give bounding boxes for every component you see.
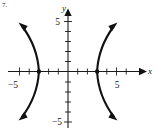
left-branch-lower-arrow-icon: [19, 112, 28, 121]
right-branch-upper-arrow-icon: [108, 23, 117, 32]
right-branch-lower-arrow-icon: [108, 112, 117, 121]
coordinate-plane: −5 5 x 5 −5 y: [0, 0, 157, 135]
y-axis-group: 5 −5 y: [52, 3, 72, 128]
x-axis-label: x: [147, 66, 152, 76]
left-vertex-point: [37, 69, 41, 73]
right-vertex-point: [95, 69, 99, 73]
hyperbola-figure: 7. −5 5 x: [0, 0, 157, 135]
x-tick-label-positive-five: 5: [115, 80, 120, 90]
x-axis-arrow-icon: [139, 68, 147, 75]
left-branch-upper-arrow-icon: [19, 23, 28, 32]
y-tick-label-negative-five: −5: [52, 117, 62, 127]
x-tick-label-negative-five: −5: [8, 80, 18, 90]
x-axis-group: −5 5 x: [8, 66, 152, 90]
y-axis-label: y: [61, 3, 66, 13]
y-tick-label-positive-five: 5: [55, 17, 60, 27]
